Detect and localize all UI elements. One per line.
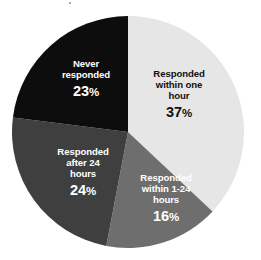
percent-symbol: % xyxy=(89,86,99,98)
pie-value-number: 37 xyxy=(166,104,182,120)
pie-value-responded-within-one-hour: 37% xyxy=(136,104,222,121)
pie-label-line-1: Never xyxy=(44,58,128,69)
pie-label-responded-within-1-24-hours: Responded within 1-24 hours 16% xyxy=(124,172,208,225)
pie-label-line-3: hour xyxy=(136,90,222,101)
pie-value-never-responded: 23% xyxy=(44,83,128,100)
pie-chart: Responded within one hour 37% Responded … xyxy=(0,0,261,260)
pie-label-line-1: Responded xyxy=(40,146,126,157)
pie-label-responded-after-24-hours: Responded after 24 hours 24% xyxy=(40,146,126,199)
pie-label-never-responded: Never responded 23% xyxy=(44,58,128,100)
pie-label-line-1: Responded xyxy=(124,172,208,183)
pie-label-line-2: within one xyxy=(136,79,222,90)
pie-label-line-2: responded xyxy=(44,69,128,80)
pie-value-number: 23 xyxy=(73,83,89,99)
pie-value-responded-within-1-24-hours: 16% xyxy=(124,208,208,225)
scan-artifact-speck xyxy=(69,2,71,4)
percent-symbol: % xyxy=(182,107,192,119)
pie-label-responded-within-one-hour: Responded within one hour 37% xyxy=(136,68,222,121)
pie-label-line-2: within 1-24 xyxy=(124,183,208,194)
pie-value-number: 16 xyxy=(153,208,169,224)
percent-symbol: % xyxy=(86,185,96,197)
pie-value-number: 24 xyxy=(70,182,86,198)
pie-label-line-1: Responded xyxy=(136,68,222,79)
pie-label-line-2: after 24 xyxy=(40,157,126,168)
percent-symbol: % xyxy=(169,211,179,223)
pie-label-line-3: hours xyxy=(124,194,208,205)
pie-value-responded-after-24-hours: 24% xyxy=(40,182,126,199)
pie-label-line-3: hours xyxy=(40,168,126,179)
